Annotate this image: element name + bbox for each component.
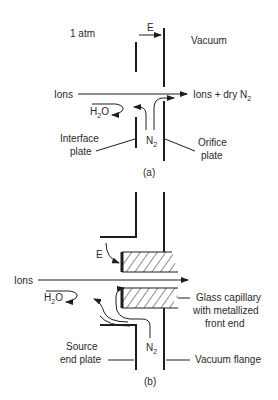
ions-in-label: Ions: [54, 89, 73, 100]
interface-plate-label-1: Interface: [60, 133, 99, 144]
field-label: E: [147, 22, 154, 33]
water-label-b: H2O: [44, 292, 63, 305]
capillary-upper-hatch: [122, 252, 178, 272]
capillary-label-1: Glass capillary: [196, 292, 261, 303]
capillary-label-2: with metallized: [192, 305, 259, 316]
diagram-svg: 1 atm E Vacuum Ions Ions + dry N2 H2O N2…: [0, 0, 278, 400]
vacuum-flange-label: Vacuum flange: [195, 354, 261, 365]
interface-plate-leader: [96, 139, 135, 151]
source-plate-label-2: end plate: [60, 354, 102, 365]
orifice-plate-leader: [165, 139, 195, 151]
source-plate-upper: [100, 192, 136, 237]
caption-a: (a): [143, 167, 155, 178]
water-label: H2O: [90, 106, 109, 119]
field-label-b: E: [96, 249, 103, 260]
vacuum-label: Vacuum: [191, 35, 227, 46]
panel-b: E Ions H2O N2 Glass capillary with metal…: [14, 192, 261, 387]
n2-label: N2: [146, 135, 157, 148]
capillary-label-3: front end: [205, 318, 244, 329]
panel-a: 1 atm E Vacuum Ions Ions + dry N2 H2O N2…: [54, 22, 251, 178]
pressure-label: 1 atm: [70, 28, 95, 39]
ions-out-label: Ions + dry N2: [193, 89, 251, 102]
source-plate-label-1: Source: [66, 341, 98, 352]
orifice-plate-label-1: Orifice: [198, 137, 227, 148]
field-arrow-b-icon: [106, 243, 119, 263]
interface-plate-label-2: plate: [70, 146, 92, 157]
capillary-lower-hatch: [122, 288, 178, 308]
caption-b: (b): [144, 376, 156, 387]
n2-label-b: N2: [146, 342, 157, 355]
source-plate-lower: [100, 325, 136, 370]
ion-interface-diagram: 1 atm E Vacuum Ions Ions + dry N2 H2O N2…: [0, 0, 278, 400]
ions-in-label-b: Ions: [14, 275, 33, 286]
orifice-plate-label-2: plate: [201, 150, 223, 161]
